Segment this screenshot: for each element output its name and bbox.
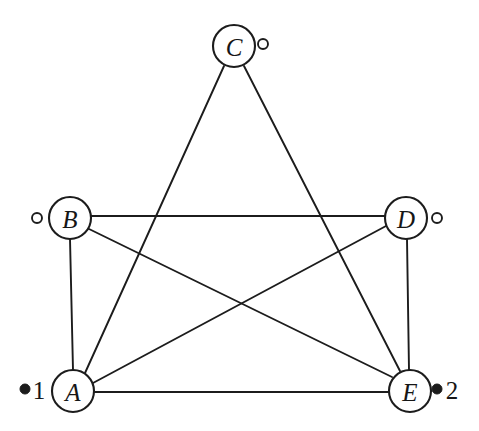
node-e[interactable]: E <box>389 370 431 412</box>
port-a[interactable]: 1 <box>20 377 45 404</box>
edge-b-e <box>87 228 392 377</box>
port-d[interactable] <box>432 213 442 223</box>
node-label-a: A <box>63 379 81 406</box>
edge-a-c <box>85 66 224 373</box>
port-a-label: 1 <box>33 377 46 404</box>
node-c[interactable]: C <box>213 25 255 67</box>
node-label-d: D <box>396 206 415 233</box>
nodes-layer: ABCDE <box>49 25 431 412</box>
node-label-b: B <box>62 206 77 233</box>
open-circle-icon <box>258 39 268 49</box>
node-a[interactable]: A <box>52 370 94 412</box>
edge-a-d <box>93 226 386 383</box>
edge-a-b <box>70 239 73 370</box>
port-c[interactable] <box>258 39 268 49</box>
graph-canvas: ABCDE 12 <box>0 0 479 431</box>
port-e[interactable]: 2 <box>432 377 458 404</box>
open-circle-icon <box>432 213 442 223</box>
filled-dot-icon <box>432 384 442 394</box>
port-b[interactable] <box>32 213 42 223</box>
edge-d-e <box>407 239 409 370</box>
open-circle-icon <box>32 213 42 223</box>
node-d[interactable]: D <box>385 197 427 239</box>
node-b[interactable]: B <box>49 197 91 239</box>
port-e-label: 2 <box>446 377 459 404</box>
node-label-e: E <box>401 379 417 406</box>
graph-figure: ABCDE 12 <box>0 0 479 431</box>
edges-layer <box>70 66 409 392</box>
edge-c-e <box>244 66 400 371</box>
node-label-c: C <box>226 34 243 61</box>
filled-dot-icon <box>20 384 30 394</box>
